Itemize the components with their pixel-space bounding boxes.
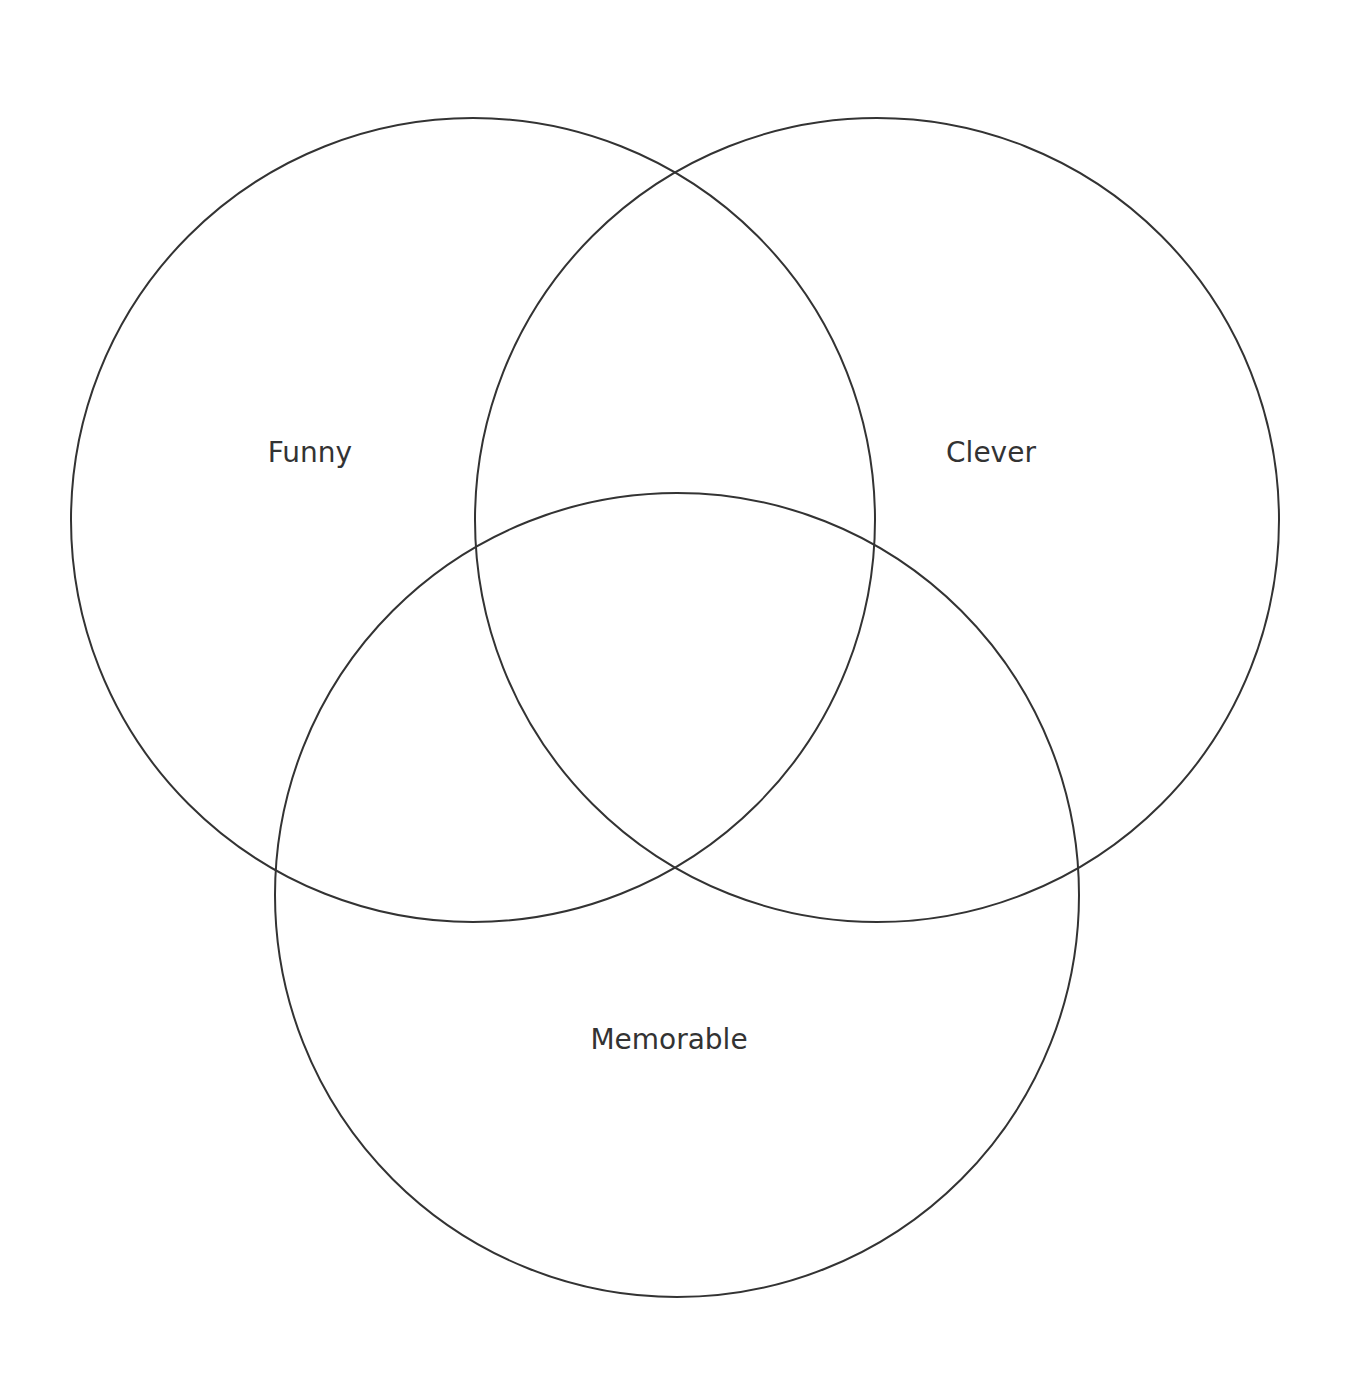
circle-memorable [275,493,1079,1297]
label-memorable: Memorable [590,1023,747,1056]
circle-funny [71,118,875,922]
label-funny: Funny [268,436,352,469]
label-clever: Clever [946,436,1036,469]
venn-diagram: Funny Clever Memorable [0,0,1355,1375]
circle-clever [475,118,1279,922]
